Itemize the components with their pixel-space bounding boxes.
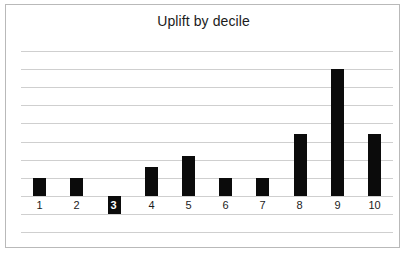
x-tick-label-5: 5 [170,199,207,212]
x-tick-label-8: 8 [281,199,318,212]
x-tick-label-6: 6 [207,199,244,212]
x-axis-tick-labels: 12345678910 [21,42,393,232]
chart-card: Uplift by decile 12345678910 [5,4,400,248]
gridline [21,232,393,233]
screenshot-root: Uplift by decile 12345678910 [0,0,409,260]
chart-title: Uplift by decile [6,13,401,30]
x-tick-label-4: 4 [133,199,170,212]
x-tick-label-3: 3 [95,199,132,212]
x-tick-label-7: 7 [244,199,281,212]
x-tick-label-9: 9 [319,199,356,212]
x-tick-label-1: 1 [21,199,58,212]
plot-area: 12345678910 [21,42,393,232]
x-tick-label-2: 2 [58,199,95,212]
x-tick-label-10: 10 [356,199,393,212]
